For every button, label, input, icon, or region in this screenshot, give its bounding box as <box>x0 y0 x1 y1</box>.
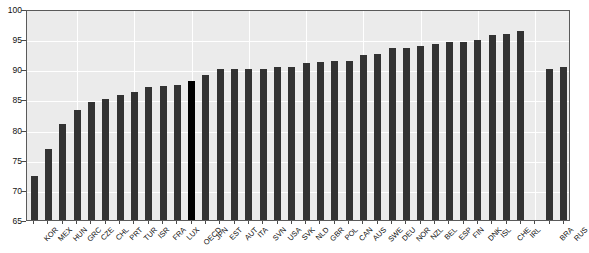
x-tick-mark <box>119 221 120 224</box>
plot-area <box>26 10 570 221</box>
bar <box>489 35 496 220</box>
bar <box>174 85 181 220</box>
x-tick-label: RUS <box>572 226 589 243</box>
x-tick-label: AUS <box>372 226 389 243</box>
bar <box>417 46 424 220</box>
bar <box>546 69 553 220</box>
x-tick-mark <box>563 221 564 224</box>
x-tick-mark <box>234 221 235 224</box>
x-tick-mark <box>448 221 449 224</box>
bar <box>260 69 267 220</box>
x-tick-mark <box>47 221 48 224</box>
x-tick-label: ISL <box>500 226 514 240</box>
x-tick-mark <box>176 221 177 224</box>
bar <box>317 62 324 220</box>
x-tick-mark <box>291 221 292 224</box>
bar <box>331 61 338 220</box>
bar <box>160 86 167 220</box>
bar <box>403 48 410 220</box>
x-axis: KORMEXHUNGRCCZECHLPRTTURISRFRALUXOECDJPN… <box>26 221 570 253</box>
x-tick-label: EST <box>229 226 245 242</box>
y-tick-label: 100 <box>8 6 22 14</box>
x-tick-label: NLD <box>315 226 331 242</box>
bar <box>231 69 238 220</box>
x-tick-label: ITA <box>256 226 270 240</box>
bar <box>560 67 567 220</box>
bar <box>503 34 510 220</box>
bar <box>131 92 138 220</box>
x-tick-mark <box>205 221 206 224</box>
x-tick-label: ISR <box>156 226 171 241</box>
x-tick-mark <box>305 221 306 224</box>
bar <box>474 40 481 220</box>
x-tick-mark <box>319 221 320 224</box>
bar <box>88 102 95 220</box>
x-tick-mark <box>76 221 77 224</box>
x-tick-mark <box>162 221 163 224</box>
x-tick-mark <box>33 221 34 224</box>
x-tick-mark <box>506 221 507 224</box>
bar <box>45 149 52 220</box>
x-tick-mark <box>90 221 91 224</box>
bar <box>74 110 81 220</box>
bar <box>460 42 467 220</box>
bar <box>202 75 209 220</box>
x-tick-mark <box>420 221 421 224</box>
x-tick-label: BEL <box>443 226 459 242</box>
x-tick-mark <box>248 221 249 224</box>
x-tick-mark <box>463 221 464 224</box>
bar <box>217 69 224 220</box>
bar <box>446 42 453 220</box>
x-tick-label: LUX <box>186 226 202 242</box>
x-tick-mark <box>491 221 492 224</box>
x-tick-mark <box>405 221 406 224</box>
bar <box>117 95 124 220</box>
x-tick-mark <box>191 221 192 224</box>
x-tick-mark <box>391 221 392 224</box>
x-tick-mark <box>277 221 278 224</box>
x-tick-mark <box>105 221 106 224</box>
bar <box>245 69 252 220</box>
x-tick-mark <box>262 221 263 224</box>
x-tick-mark <box>477 221 478 224</box>
x-tick-mark <box>334 221 335 224</box>
x-tick-mark <box>219 221 220 224</box>
x-tick-label: BRA <box>558 226 575 243</box>
x-tick-mark <box>362 221 363 224</box>
x-tick-mark <box>549 221 550 224</box>
bar <box>517 31 524 220</box>
x-tick-mark <box>520 221 521 224</box>
bar <box>59 124 66 220</box>
x-tick-label: POL <box>343 226 359 242</box>
x-tick-mark <box>348 221 349 224</box>
bars-layer <box>27 11 569 220</box>
bar <box>389 48 396 220</box>
x-tick-mark <box>377 221 378 224</box>
x-tick-mark <box>434 221 435 224</box>
bar <box>303 63 310 220</box>
y-axis: 65707580859095100 <box>0 0 26 231</box>
bar <box>360 55 367 220</box>
x-tick-mark <box>148 221 149 224</box>
x-tick-mark <box>62 221 63 224</box>
bar <box>274 67 281 220</box>
bar <box>346 61 353 220</box>
bar-highlight <box>188 81 195 220</box>
x-tick-mark <box>534 221 535 224</box>
bar <box>288 67 295 220</box>
x-tick-mark <box>133 221 134 224</box>
bar <box>432 44 439 220</box>
x-tick-label: FIN <box>471 226 485 240</box>
bar <box>31 176 38 220</box>
x-tick-label: IRL <box>528 226 542 240</box>
bar <box>145 87 152 220</box>
bar <box>374 54 381 220</box>
bar <box>102 99 109 220</box>
